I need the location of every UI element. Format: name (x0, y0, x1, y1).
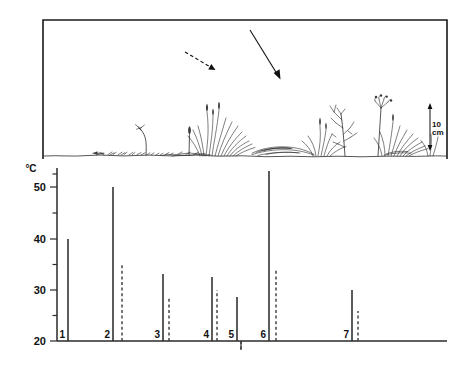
site-label-3: 3 (154, 329, 160, 340)
site-label-1: 1 (59, 329, 65, 340)
site-label-6: 6 (260, 329, 266, 340)
tussock-grass-right (374, 114, 428, 156)
dashed-arrow (185, 52, 216, 70)
ground-line (44, 155, 446, 157)
forb-plant-left (136, 125, 147, 156)
vegetation-profile-panel: 10 cm (43, 20, 447, 159)
site-label-7: 7 (343, 329, 349, 340)
prostrate-mat-centre (252, 147, 314, 156)
grass-tuft-right-centre (302, 118, 346, 156)
tussock-grass-centre (188, 102, 255, 156)
profile-frame (43, 20, 447, 159)
site-label-5: 5 (228, 329, 234, 340)
spikelet-plant-small (188, 126, 191, 156)
site-label-2: 2 (104, 329, 110, 340)
site-label-4: 4 (203, 329, 209, 340)
solid-arrow (250, 30, 281, 80)
figure-svg: 10 cm 50 (0, 0, 465, 365)
scale-bar: 10 cm (428, 103, 444, 151)
y-tick-label-40: 40 (34, 233, 46, 245)
y-tick-label-30: 30 (34, 284, 46, 296)
figure-container: 10 cm 50 (0, 0, 465, 365)
y-axis-unit-label: °C (25, 163, 36, 174)
y-tick-label-50: 50 (34, 181, 46, 193)
bars-solid-series (68, 171, 352, 341)
site-labels: 1 2 3 4 5 6 7 (59, 329, 349, 340)
temperature-bar-chart: 50 40 30 20 °C (25, 163, 447, 350)
scale-bar-unit: cm (432, 128, 444, 137)
y-tick-label-20: 20 (34, 335, 46, 347)
branched-shrublet (330, 105, 357, 156)
